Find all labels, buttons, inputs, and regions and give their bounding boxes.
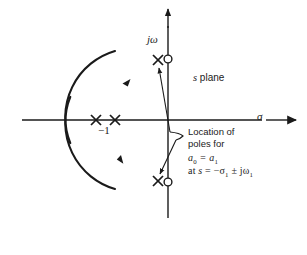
callout-line-2: poles for [188,138,253,150]
s-plane-figure: jω σ s plane −1 Location of poles for a0… [0,0,307,255]
callout-sigma-part: = −σ [202,165,225,176]
callout-omega-sub: 1 [250,171,254,178]
callout-fork [170,132,183,140]
callout-line-4: at s = −σ1 ± jω1 [188,164,253,177]
locus-direction-arrow-upper [123,77,133,87]
callout-at-word: at [188,165,198,176]
real-axis-minus-one-label: −1 [98,124,110,137]
callout-line-1: Location of [188,126,253,138]
s-plane-label: s plane [193,72,224,84]
callout-omega-part: ± jω [229,165,250,176]
locus-direction-arrow-lower [116,155,126,165]
callout-a1-symbol: = a [197,152,215,163]
pole-location-callout: Location of poles for a0 = a1 at s = −σ1… [188,126,253,177]
j-omega-axis-label: jω [147,33,158,46]
root-locus-arc-lower [65,97,115,189]
marker-pole-upper [153,55,163,65]
sigma-axis-label: σ [257,110,262,123]
marker-pole-lower [153,176,163,186]
s-plane-rest: plane [197,72,224,83]
marker-circle-upper [164,55,172,63]
marker-circle-lower [164,178,172,186]
callout-line-3: a0 = a1 [188,151,253,164]
